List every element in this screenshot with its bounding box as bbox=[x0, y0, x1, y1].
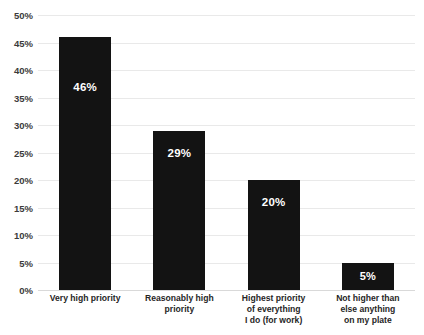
bar[interactable]: 29% bbox=[153, 131, 205, 291]
y-axis-tick: 40% bbox=[14, 65, 33, 76]
x-axis-label: Reasonably highpriority bbox=[132, 293, 226, 315]
y-axis-tick: 0% bbox=[19, 285, 33, 296]
gridline bbox=[38, 15, 415, 16]
x-axis-label-line: on my plate bbox=[321, 315, 415, 326]
axis-baseline bbox=[38, 290, 415, 291]
x-axis-label: Not higher thanelse anythingon my plate bbox=[321, 293, 415, 326]
bar-value-label: 20% bbox=[262, 196, 286, 208]
bar-value-label: 29% bbox=[168, 147, 192, 159]
y-axis: 50%45%40%35%30%25%20%15%10%5%0% bbox=[0, 0, 36, 335]
y-axis-tick: 45% bbox=[14, 37, 33, 48]
chart-title bbox=[0, 0, 424, 2]
bar-value-label: 5% bbox=[360, 270, 376, 282]
x-axis-label: Very high priority bbox=[38, 293, 132, 304]
y-axis-tick: 25% bbox=[14, 147, 33, 158]
x-axis-label-line: Reasonably high bbox=[132, 293, 226, 304]
x-axis-label-line: of everything bbox=[227, 304, 321, 315]
x-axis-label-line: Very high priority bbox=[38, 293, 132, 304]
y-axis-tick: 35% bbox=[14, 92, 33, 103]
bar[interactable]: 20% bbox=[248, 180, 300, 290]
y-axis-tick: 5% bbox=[19, 257, 33, 268]
x-axis-labels: Very high priorityReasonably highpriorit… bbox=[38, 293, 415, 335]
x-axis-label-line: else anything bbox=[321, 304, 415, 315]
bar-chart: 50%45%40%35%30%25%20%15%10%5%0% 46%29%20… bbox=[0, 0, 424, 335]
x-axis-label: Highest priorityof everythingI do (for w… bbox=[227, 293, 321, 326]
y-axis-tick: 50% bbox=[14, 10, 33, 21]
bar-value-label: 46% bbox=[73, 81, 97, 93]
y-axis-tick: 15% bbox=[14, 202, 33, 213]
bar[interactable]: 46% bbox=[59, 37, 111, 290]
y-axis-tick: 20% bbox=[14, 175, 33, 186]
x-axis-label-line: Highest priority bbox=[227, 293, 321, 304]
y-axis-tick: 30% bbox=[14, 120, 33, 131]
bar[interactable]: 5% bbox=[342, 263, 394, 291]
y-axis-tick: 10% bbox=[14, 230, 33, 241]
x-axis-label-line: Not higher than bbox=[321, 293, 415, 304]
x-axis-label-line: I do (for work) bbox=[227, 315, 321, 326]
plot-area: 46%29%20%5% bbox=[38, 15, 415, 290]
x-axis-label-line: priority bbox=[132, 304, 226, 315]
